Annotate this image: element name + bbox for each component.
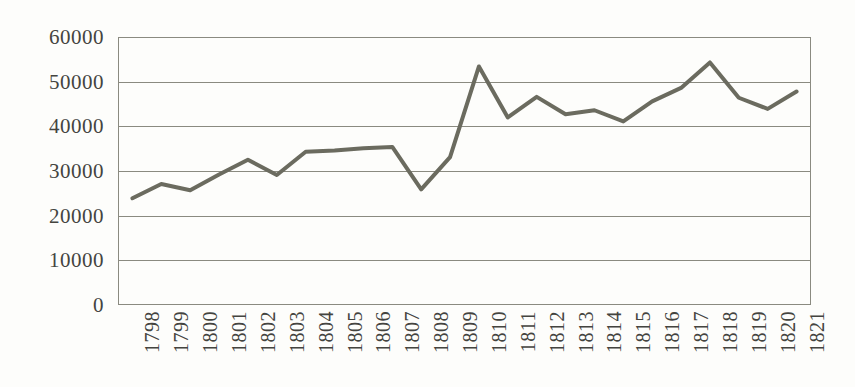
series-polyline	[132, 62, 796, 198]
x-tick-label: 1808	[430, 311, 453, 353]
x-tick-label: 1801	[228, 311, 251, 353]
x-tick-label: 1805	[344, 311, 367, 353]
x-tick-label: 1814	[603, 311, 626, 353]
x-axis: 1798179918001801180218031804180518061807…	[0, 305, 855, 387]
x-tick-label: 1810	[488, 311, 511, 353]
x-tick-label: 1809	[459, 311, 482, 353]
x-tick-label: 1818	[719, 311, 742, 353]
x-tick-label: 1815	[632, 311, 655, 353]
x-tick-label: 1821	[806, 311, 829, 353]
y-tick-label: 60000	[49, 25, 104, 50]
data-series-line	[118, 37, 811, 305]
x-tick-label: 1816	[661, 311, 684, 353]
y-tick-label: 40000	[49, 114, 104, 139]
y-tick-label: 20000	[49, 203, 104, 228]
line-chart: 0100002000030000400005000060000 17981799…	[0, 0, 855, 387]
y-tick-label: 10000	[49, 248, 104, 273]
x-tick-label: 1803	[286, 311, 309, 353]
x-tick-label: 1802	[257, 311, 280, 353]
x-tick-label: 1817	[690, 311, 713, 353]
x-tick-label: 1811	[517, 311, 540, 352]
y-tick-label: 30000	[49, 159, 104, 184]
x-tick-label: 1804	[315, 311, 338, 353]
x-tick-label: 1806	[372, 311, 395, 353]
x-tick-label: 1813	[575, 311, 598, 353]
plot-area	[118, 37, 811, 305]
x-tick-label: 1800	[199, 311, 222, 353]
x-tick-label: 1812	[546, 311, 569, 353]
x-tick-label: 1807	[401, 311, 424, 353]
x-tick-label: 1798	[141, 311, 164, 353]
x-tick-label: 1799	[170, 311, 193, 353]
x-tick-label: 1820	[777, 311, 800, 353]
x-tick-label: 1819	[748, 311, 771, 353]
y-tick-label: 50000	[49, 69, 104, 94]
